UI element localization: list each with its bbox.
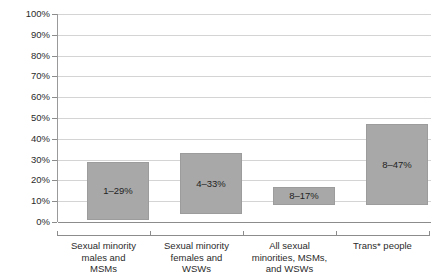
y-tick-label: 30%: [6, 155, 50, 165]
bar-range-label: 8–47%: [367, 160, 427, 170]
x-tick-mark: [243, 231, 244, 236]
y-tick-mark: [52, 222, 57, 223]
y-tick-label: 0%: [6, 217, 50, 227]
y-tick-label: 50%: [6, 113, 50, 123]
bar-range-label: 1–29%: [88, 186, 148, 196]
y-tick-label: 70%: [6, 72, 50, 82]
bar-range-label: 4–33%: [181, 179, 241, 189]
y-tick-label: 90%: [6, 30, 50, 40]
bar-range-label: 8–17%: [274, 191, 334, 201]
gridline-100: [58, 14, 431, 15]
x-tick-mark: [150, 231, 151, 236]
gridline-0: [58, 222, 431, 223]
y-tick-label: 80%: [6, 51, 50, 61]
gridline-50: [58, 118, 431, 119]
bar-sexual-minority-males-msms[interactable]: 1–29%: [87, 162, 149, 220]
gridline-90: [58, 35, 431, 36]
y-tick-label: 60%: [6, 92, 50, 102]
y-tick-label: 100%: [6, 9, 50, 19]
x-tick-mark: [336, 231, 337, 236]
gridline-80: [58, 56, 431, 57]
gridline-70: [58, 76, 431, 77]
y-tick-label: 40%: [6, 134, 50, 144]
bar-sexual-minority-females-wsws[interactable]: 4–33%: [180, 153, 242, 213]
gridline-60: [58, 97, 431, 98]
range-bar-chart: 100% 90% 80% 70% 60% 50% 40% 30% 20% 10%…: [0, 0, 445, 278]
bar-trans-people[interactable]: 8–47%: [366, 124, 428, 205]
plot-area: 1–29% 4–33% 8–17% 8–47%: [57, 14, 430, 222]
x-tick-mark: [429, 231, 430, 236]
bar-all-sexual-minorities-msms-wsws[interactable]: 8–17%: [273, 187, 335, 206]
y-tick-label: 20%: [6, 176, 50, 186]
y-tick-label: 10%: [6, 196, 50, 206]
x-tick-mark: [57, 231, 58, 236]
x-category-label-trans-people: Trans* people: [320, 240, 445, 252]
